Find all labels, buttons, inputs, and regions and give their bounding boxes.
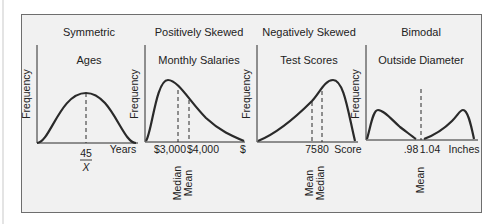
x-axis-label: Years	[110, 143, 136, 155]
panel-subtitle: Monthly Salaries	[158, 54, 240, 66]
tick-label: 75	[305, 143, 317, 155]
y-axis-label: Frequency	[240, 68, 252, 118]
tick-label: .98	[404, 143, 419, 155]
tick-label: $3,000	[154, 143, 186, 155]
panel-subtitle: Ages	[76, 54, 102, 66]
panel-subtitle: Outside Diameter	[378, 54, 464, 66]
panel-symmetric: Symmetric Ages Frequency 45 X Years	[20, 26, 138, 173]
x-axis-label: Inches	[449, 143, 480, 155]
y-axis-label: Frequency	[349, 68, 361, 118]
x-axis-label: Score	[334, 143, 362, 155]
tick-label: 45	[80, 147, 92, 159]
y-axis-label: Frequency	[128, 68, 140, 118]
panel-title: Negatively Skewed	[262, 26, 356, 38]
tick-label: 1.04	[420, 143, 441, 155]
tick-label: $4,000	[187, 143, 219, 155]
y-axis-label: Frequency	[20, 68, 32, 118]
panel-negatively-skewed: Negatively Skewed Test Scores Frequency …	[240, 26, 362, 200]
distribution-curve-left-mode	[367, 110, 416, 139]
distribution-curve-right-mode	[424, 110, 474, 139]
x-bar-symbol: X	[81, 161, 90, 173]
panel-title: Bimodal	[401, 26, 441, 38]
panel-subtitle: Test Scores	[280, 54, 338, 66]
mean-label: Mean	[182, 170, 194, 196]
x-axis-label: $	[240, 143, 246, 155]
panel-title: Symmetric	[63, 26, 115, 38]
panel-bimodal: Bimodal Outside Diameter Frequency .98 1…	[349, 26, 479, 193]
distribution-curve	[146, 80, 244, 141]
distribution-shapes-figure: Symmetric Ages Frequency 45 X Years Posi…	[0, 0, 500, 224]
panel-positively-skewed: Positively Skewed Monthly Salaries Frequ…	[128, 26, 246, 200]
panel-title: Positively Skewed	[155, 26, 244, 38]
median-label: Median	[314, 166, 326, 201]
tick-label: 80	[317, 143, 329, 155]
distribution-curve	[258, 80, 355, 141]
mean-label: Mean	[414, 167, 426, 193]
